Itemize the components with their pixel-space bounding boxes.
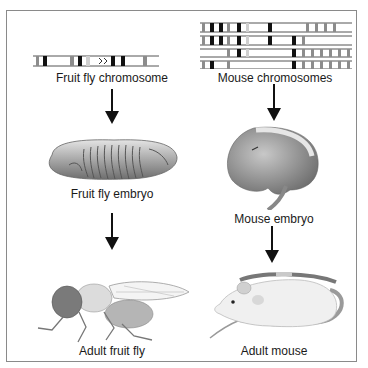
arrow-down-icon [265,226,279,264]
fruit-fly-embryo-label: Fruit fly embryo [71,187,154,201]
fruit-fly-embryo [44,135,179,185]
mouse-embryo [224,124,324,210]
mouse-icon [200,268,350,340]
adult-fruit-fly-label: Adult fruit fly [79,344,145,358]
arrow-down-icon [105,89,119,125]
arrow-down-icon [267,84,281,122]
chromosome-icon [33,55,159,67]
adult-fruit-fly [34,272,194,344]
mouse-chromosomes [196,19,356,69]
mouse-chromosomes-label: Mouse chromosomes [218,71,333,85]
adult-mouse [200,268,350,340]
fruit-fly-icon [34,272,194,344]
fruit-fly-chromosome-label: Fruit fly chromosome [56,71,168,85]
fruit-fly-chromosome [33,55,159,67]
mouse-embryo-icon [224,124,324,210]
arrow-down-icon [105,213,119,251]
fruit-fly-embryo-icon [44,135,179,185]
chromosomes-icon [196,19,356,69]
mouse-embryo-label: Mouse embryo [234,212,313,226]
adult-mouse-label: Adult mouse [241,344,308,358]
